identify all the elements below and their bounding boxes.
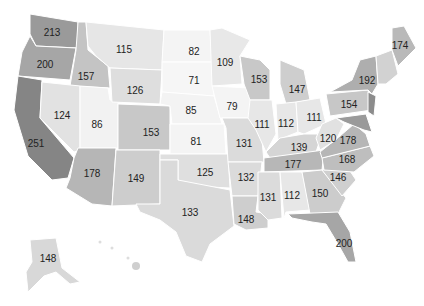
state-label-mn: 109 [217,57,234,68]
state-label-nv: 124 [54,110,71,121]
state-label-sc: 146 [330,172,347,183]
state-label-ut: 86 [91,119,102,130]
state-label-tn: 177 [285,159,302,170]
state-label-me: 174 [392,40,409,51]
state-label-fl: 200 [336,238,353,249]
state-nd [162,30,212,62]
state-nj [368,92,376,116]
state-label-id: 157 [78,71,95,82]
state-label-ak: 148 [40,253,57,264]
state-label-ms: 131 [260,192,277,203]
hi-island [111,247,114,250]
state-label-or: 200 [37,59,54,70]
state-label-va: 178 [340,135,357,146]
state-hi [132,262,140,270]
state-label-tx: 133 [182,207,199,218]
state-label-ks: 81 [190,136,201,147]
state-label-ga: 150 [312,188,329,199]
state-label-oh: 111 [306,112,321,123]
state-label-ar: 132 [238,172,255,183]
state-label-mt: 115 [116,44,132,55]
state-label-sd: 71 [188,75,199,86]
state-label-mo: 131 [236,138,253,149]
state-label-ny: 192 [359,75,376,86]
hi-island [127,257,130,260]
state-label-ok: 125 [197,167,214,178]
state-label-az: 178 [84,168,101,179]
state-label-ky: 139 [291,142,308,153]
state-label-wi: 153 [251,74,268,85]
state-label-wy: 126 [127,85,144,96]
hi-island [99,241,102,244]
state-label-ca: 251 [28,138,45,149]
state-mi [280,60,310,104]
state-label-wv: 120 [320,133,337,144]
map-shapes [0,0,424,306]
state-label-co: 153 [143,127,160,138]
state-label-pa: 154 [341,99,358,110]
state-label-nd: 82 [188,46,199,57]
state-label-nc: 168 [339,154,356,165]
state-label-al: 112 [284,190,300,201]
state-label-nm: 149 [128,173,145,184]
state-label-il: 111 [254,119,269,130]
state-label-mi: 147 [289,84,306,95]
state-label-ia: 79 [226,101,237,112]
state-label-in: 112 [278,118,294,129]
state-label-wa: 213 [44,27,61,38]
state-label-ne: 85 [185,105,196,116]
us-choropleth-map: 2132002511571248617811512615314982718581… [0,0,424,306]
state-label-la: 148 [238,214,255,225]
state-ak [26,238,80,292]
